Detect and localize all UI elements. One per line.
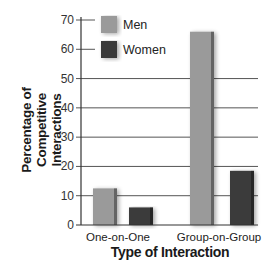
legend-swatch-men [101, 16, 117, 33]
bar-men [190, 32, 214, 225]
bar-edge [114, 188, 117, 225]
x-tick-label: One-on-One [86, 231, 150, 243]
y-axis-label: Percentage of Competitive Interactions [19, 55, 55, 205]
bar-women [129, 207, 153, 225]
bar-edge [251, 171, 254, 225]
bar-men [93, 188, 117, 225]
bar-women [230, 171, 254, 225]
legend-label: Women [123, 43, 166, 57]
legend-label: Men [123, 18, 147, 32]
y-tick-label: 0 [67, 218, 74, 232]
x-axis-label: Type of Interaction [70, 244, 270, 260]
x-tick-label: Group-on-Group [177, 231, 261, 243]
y-axis-label-line-1: Percentage of [19, 55, 34, 205]
legend-swatch-women [101, 41, 117, 58]
y-axis-label-line-2: Competitive Interactions [34, 55, 64, 205]
bar-edge [211, 32, 214, 225]
y-tick-label: 70 [61, 13, 75, 27]
bar-edge [150, 207, 153, 225]
bar-chart: 102030405060700One-on-OneGroup-on-GroupM… [0, 0, 270, 275]
